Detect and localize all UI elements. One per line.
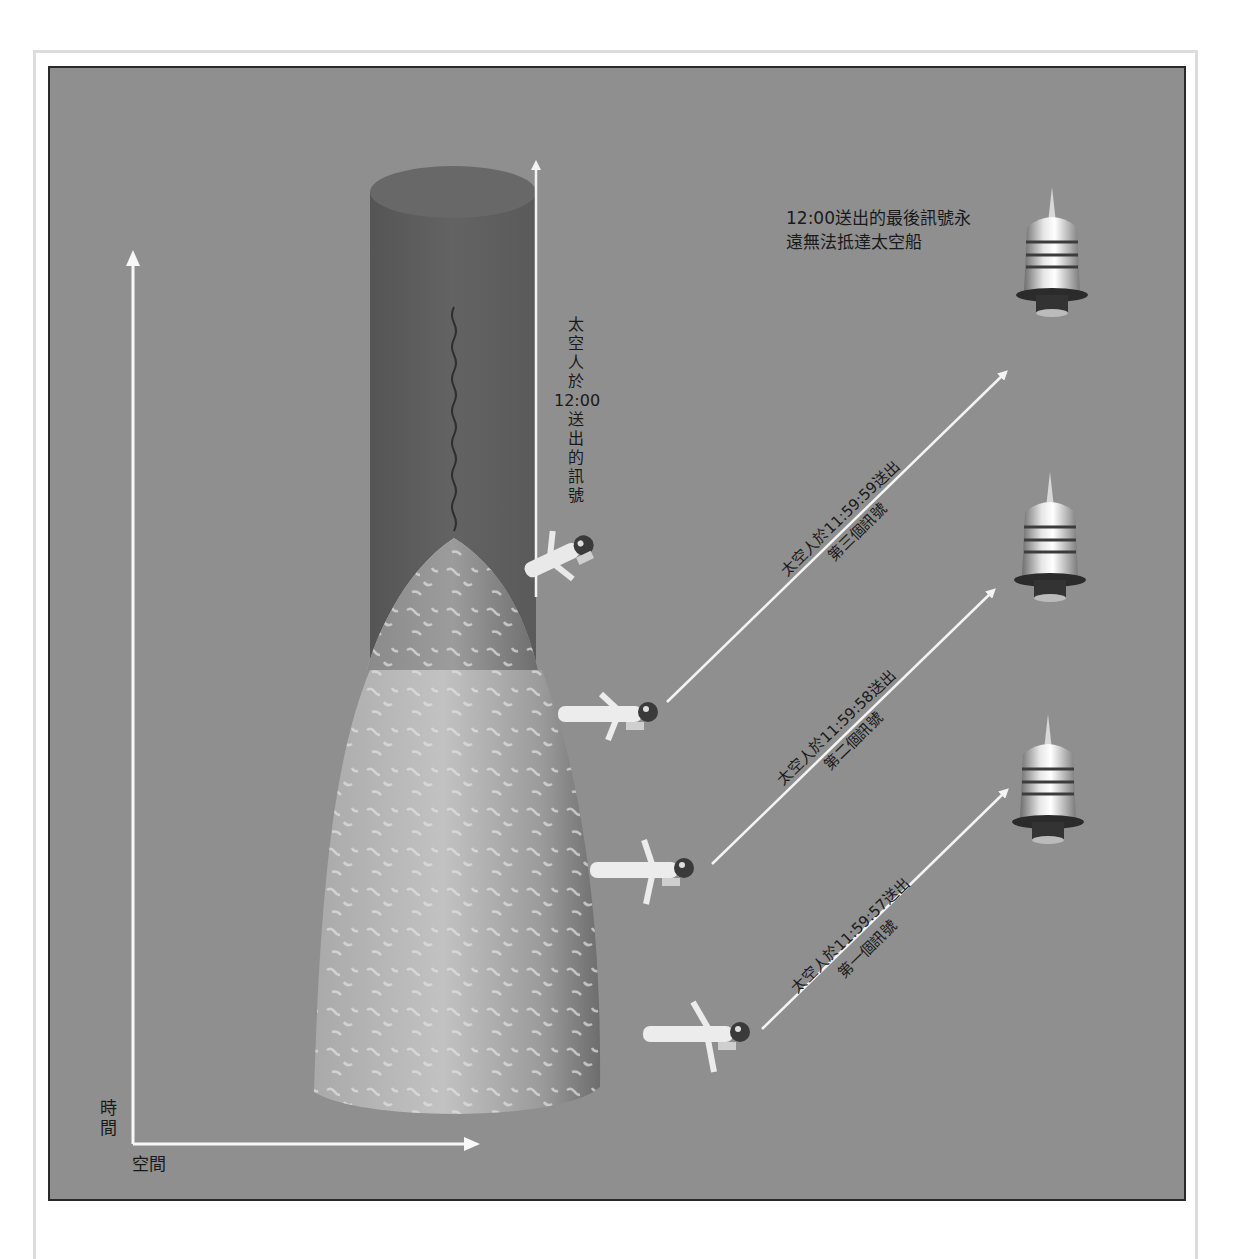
vertical-label-char: 人 [554, 353, 598, 372]
collapsing-star-cone [314, 538, 600, 1114]
final-signal-note-line2: 遠無法抵達太空船 [786, 230, 971, 254]
final-signal-note-line1: 12:00送出的最後訊號永 [786, 206, 971, 230]
astronaut-icon [590, 840, 694, 904]
time-axis-label: 時間 [97, 1098, 119, 1138]
vertical-label-char: 太 [554, 315, 598, 334]
signal-1200-label: 太 空 人 於 12:00 送 出 的 訊 號 [554, 315, 598, 505]
astronaut-icon [558, 694, 658, 740]
vertical-label-char: 出 [554, 429, 598, 448]
vertical-label-char: 空 [554, 334, 598, 353]
spaceship-icon [1016, 187, 1088, 317]
spaceship-icon [1012, 714, 1084, 844]
vertical-label-char: 12:00 [554, 391, 598, 410]
vertical-label-char: 的 [554, 448, 598, 467]
final-signal-note: 12:00送出的最後訊號永 遠無法抵達太空船 [786, 206, 971, 254]
spaceship-icon [1014, 472, 1086, 602]
vertical-label-char: 訊 [554, 467, 598, 486]
astronaut-icon [643, 1002, 750, 1072]
vertical-label-char: 送 [554, 410, 598, 429]
space-axis-label: 空間 [132, 1152, 166, 1176]
vertical-label-char: 於 [554, 372, 598, 391]
diagram-panel [48, 66, 1186, 1201]
vertical-label-char: 號 [554, 486, 598, 505]
